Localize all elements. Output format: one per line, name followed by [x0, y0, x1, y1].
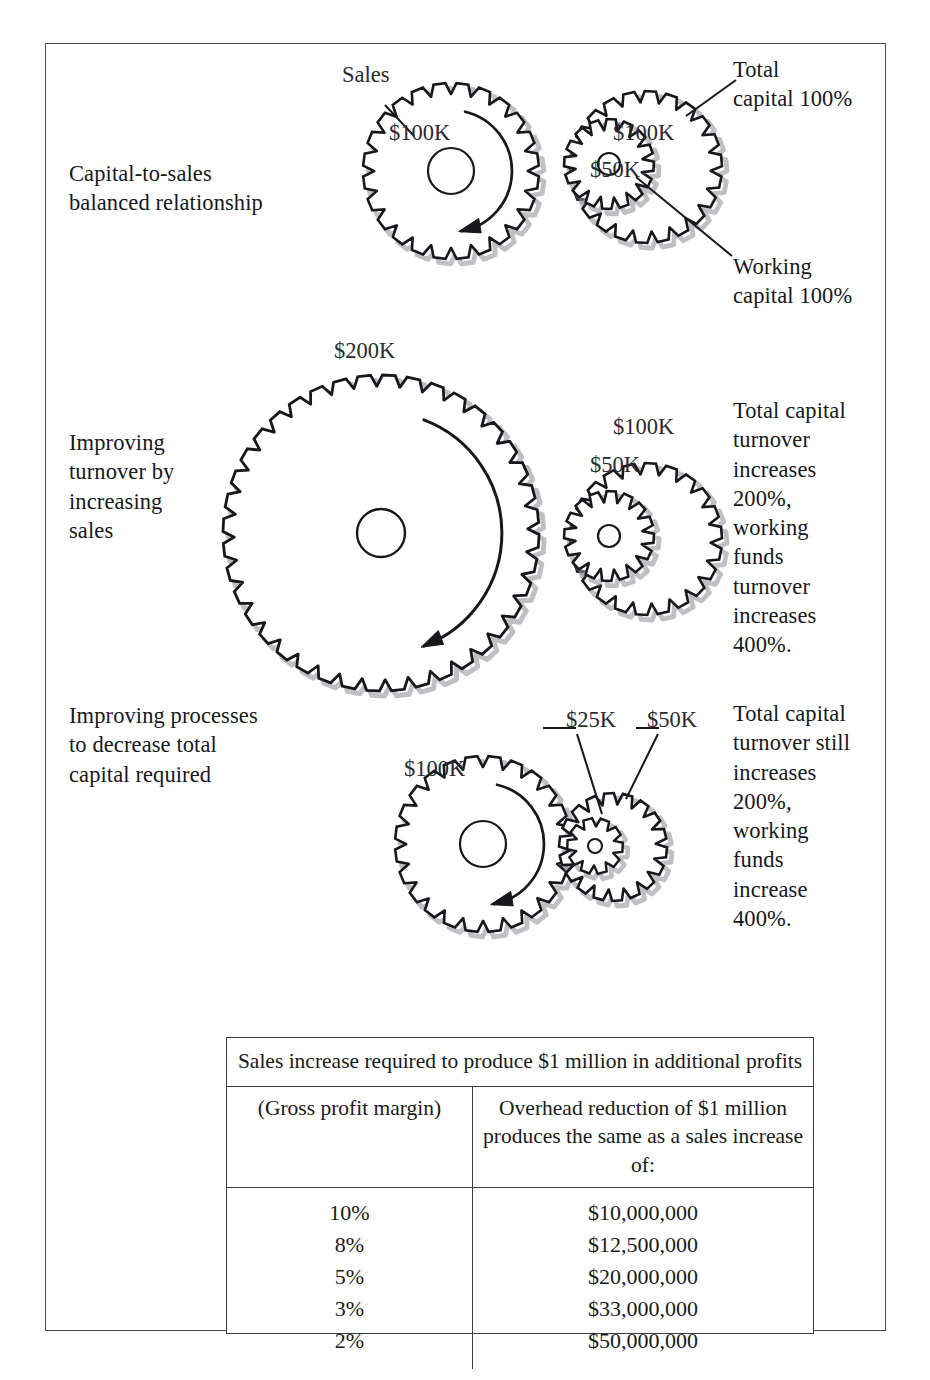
- table-body: 10%8%5%3%2% $10,000,000$12,500,000$20,00…: [227, 1188, 813, 1369]
- row3-mid-gear-value: $50K: [647, 707, 697, 733]
- sales-increase-table: Sales increase required to produce $1 mi…: [226, 1037, 814, 1334]
- table-column-amount: $10,000,000$12,500,000$20,000,000$33,000…: [473, 1188, 813, 1369]
- gear-outline: [564, 491, 654, 581]
- row3-side-note: Total capital turnover still increases 2…: [733, 699, 888, 933]
- row1-sales-label: Sales: [342, 62, 390, 88]
- table-header-left: (Gross profit margin): [227, 1087, 473, 1187]
- table-cell-margin: 8%: [227, 1229, 472, 1261]
- table-header-right: Overhead reduction of $1 million produce…: [473, 1087, 813, 1187]
- table-title-row: Sales increase required to produce $1 mi…: [227, 1038, 813, 1087]
- table-cell-amount: $10,000,000: [473, 1197, 813, 1229]
- diagram-page: Capital-to-sales balanced relationship S…: [0, 0, 930, 1380]
- gear-outline: [223, 375, 539, 691]
- row1-working-capital-callout: Working capital 100%: [733, 252, 883, 311]
- row1-big-gear-value: $100K: [389, 120, 450, 146]
- table-cell-margin: 5%: [227, 1261, 472, 1293]
- row1-total-capital-callout: Total capital 100%: [733, 55, 883, 114]
- table-header-row: (Gross profit margin) Overhead reduction…: [227, 1087, 813, 1188]
- row2-mid-gear-value: $100K: [613, 414, 674, 440]
- table-cell-margin: 3%: [227, 1293, 472, 1325]
- row2-big-gear-value: $200K: [334, 338, 395, 364]
- table-column-margin: 10%8%5%3%2%: [227, 1188, 473, 1369]
- table-cell-margin: 2%: [227, 1325, 472, 1357]
- callout-leader-line: [626, 734, 658, 799]
- row1-mid-gear-value: $100K: [613, 120, 674, 146]
- outer-frame: Capital-to-sales balanced relationship S…: [45, 43, 886, 1331]
- table-cell-margin: 10%: [227, 1197, 472, 1229]
- table-cell-amount: $50,000,000: [473, 1325, 813, 1357]
- table-cell-amount: $12,500,000: [473, 1229, 813, 1261]
- row2-side-note: Total capital turnover increases 200%, w…: [733, 396, 888, 659]
- table-cell-amount: $33,000,000: [473, 1293, 813, 1325]
- table-cell-amount: $20,000,000: [473, 1261, 813, 1293]
- row2-small-gear-value: $50K: [590, 452, 640, 478]
- row3-small-gear-value: $25K: [566, 707, 616, 733]
- callout-leader-line: [686, 80, 736, 116]
- gear-outline: [567, 818, 623, 874]
- row1-small-gear-value: $50K: [590, 157, 640, 183]
- table-title: Sales increase required to produce $1 mi…: [227, 1038, 813, 1086]
- row3-big-gear-value: $100K: [404, 756, 465, 782]
